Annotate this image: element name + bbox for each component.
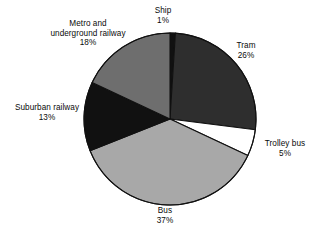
slice-label-trolley-percent: 5% xyxy=(254,149,316,159)
slice-label-ship-name: Ship xyxy=(155,6,172,15)
slice-label-metro-line2: underground railway xyxy=(36,29,140,39)
slice-label-suburban-percent: 13% xyxy=(6,113,88,123)
slice-label-tram: Tram 26% xyxy=(222,41,270,60)
slice-label-metro-line1: Metro and xyxy=(69,19,106,28)
slice-label-ship-percent: 1% xyxy=(141,16,185,26)
slice-label-metro-percent: 18% xyxy=(36,38,140,48)
slice-label-bus-name: Bus xyxy=(158,206,172,215)
slice-label-ship: Ship 1% xyxy=(141,6,185,25)
slice-label-tram-percent: 26% xyxy=(222,51,270,61)
slice-label-suburban-name: Suburban railway xyxy=(15,103,79,112)
slice-label-bus-percent: 37% xyxy=(143,216,187,226)
slice-label-trolley-bus: Trolley bus 5% xyxy=(254,139,316,158)
slice-label-tram-name: Tram xyxy=(237,41,256,50)
slice-label-bus: Bus 37% xyxy=(143,206,187,225)
slice-label-trolley-name: Trolley bus xyxy=(265,139,305,148)
slice-label-metro-underground-railway: Metro and underground railway 18% xyxy=(36,19,140,48)
pie-chart: Ship 1% Metro and underground railway 18… xyxy=(0,0,324,240)
slice-label-suburban-railway: Suburban railway 13% xyxy=(6,103,88,122)
